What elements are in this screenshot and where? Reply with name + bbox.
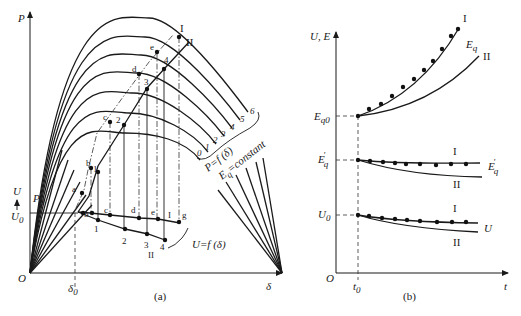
label-c-lower: c (104, 205, 108, 215)
trajectory-I (76, 35, 173, 208)
point-4-upper (162, 67, 166, 71)
point-g-lower (177, 220, 181, 224)
eqp-label-I: I (453, 145, 457, 157)
t-axis-label: t (504, 280, 508, 292)
eq-point-2 (379, 102, 383, 106)
origin-label-b: O (326, 272, 334, 284)
curve-number-5: 5 (240, 114, 245, 124)
point-2-lower (123, 227, 127, 231)
curve-number-3: 3 (220, 129, 226, 139)
label-1-upper: 1 (93, 164, 98, 174)
eq-const-line-5 (263, 158, 282, 273)
caption-b: (b) (403, 290, 416, 303)
u-axis-label: U (13, 185, 22, 197)
eq-point-6 (422, 68, 426, 72)
eqp-curve-label: Eq′ (487, 157, 499, 176)
t0-label: t0 (353, 280, 361, 295)
label-4-upper: 4 (164, 55, 169, 65)
eqp-point-4 (404, 162, 408, 166)
label-II-voltage: II (148, 250, 154, 260)
eq-point-8 (440, 47, 444, 51)
point-d-lower (137, 216, 141, 220)
label-1-lower: 1 (94, 224, 99, 234)
label-II-top: II (186, 36, 194, 48)
point-2-upper (122, 123, 126, 127)
curve-number-6: 6 (250, 106, 255, 116)
caption-a: (a) (154, 290, 167, 303)
point-b2-lower (90, 211, 94, 215)
curve-number-1: 1 (205, 142, 210, 152)
point-e-lower (156, 217, 160, 221)
figure-b-points (356, 27, 468, 224)
delta0-label: δ0 (68, 282, 78, 297)
u-point-8 (464, 220, 468, 224)
eq-const-line-1 (226, 182, 282, 273)
u-point-2 (380, 216, 384, 220)
u0-label: U0 (11, 210, 24, 225)
u-point-0 (356, 213, 360, 217)
eq-curve-II (358, 56, 479, 116)
u-point-3 (393, 217, 397, 221)
voltage-family-label: U=f (δ) (192, 238, 226, 251)
eq-curve-label: Eq (465, 38, 478, 53)
label-2-lower: 2 (122, 236, 127, 246)
u-point-1 (367, 214, 371, 218)
label-d-lower: d (131, 205, 136, 215)
ue-axis-label: U, E (310, 30, 330, 42)
eq-const-line-2 (236, 175, 282, 273)
point-1-lower (96, 218, 100, 222)
eq-point-1 (367, 107, 371, 111)
eq-point-0 (356, 114, 360, 118)
label-a: a (72, 184, 76, 194)
label-c: c (103, 112, 107, 122)
delta-axis-label: δ (266, 280, 272, 292)
u-point-7 (450, 220, 454, 224)
eq-const-line-3 (246, 168, 282, 273)
eqp-point-6 (434, 163, 438, 167)
point-c-lower (108, 213, 112, 217)
eqp-label: Eq′ (317, 150, 329, 169)
eq-point-9 (449, 34, 453, 38)
eq-point-3 (390, 94, 394, 98)
u-point-4 (405, 218, 409, 222)
u-point-6 (435, 220, 439, 224)
diagram-canvas: P O δ δ0 P0 U U0 a b b c c d d e e I II … (0, 0, 521, 316)
eq-point-4 (401, 85, 405, 89)
figure-b: U, E O t t0 Eq0 Eq′ U0 I Eq II I Eq′ II … (310, 12, 508, 303)
label-3-lower: 3 (144, 240, 149, 250)
label-3-upper: 3 (144, 77, 149, 87)
label-I-top: I (180, 22, 184, 34)
eqp-point-5 (418, 162, 422, 166)
point-e (155, 50, 159, 54)
u-point-5 (418, 219, 422, 223)
label-b-upper: b (86, 158, 91, 168)
eqp-point-8 (464, 162, 468, 166)
eq-label-II: II (483, 50, 491, 62)
eq-point-10 (456, 27, 460, 31)
label-e: e (150, 42, 154, 52)
point-3-upper (145, 87, 149, 91)
eq-point-5 (412, 77, 416, 81)
eq-curve-I (358, 28, 459, 116)
eqp-point-3 (393, 161, 397, 165)
point-3-lower (145, 232, 149, 236)
u0-label-b: U0 (318, 208, 331, 223)
u-label-II: II (453, 236, 461, 248)
eqp-point-2 (381, 160, 385, 164)
curve-number-0: 0 (197, 148, 202, 158)
eqp-point-0 (356, 158, 360, 162)
voltage-brace (168, 228, 188, 248)
eq-point-7 (431, 59, 435, 63)
label-4-lower: 4 (160, 242, 165, 252)
curve-number-2: 2 (213, 135, 218, 145)
point-a (80, 191, 84, 195)
label-e-lower: e (151, 207, 155, 217)
curve-number-4: 4 (230, 122, 235, 132)
label-2-upper: 2 (116, 115, 121, 125)
u-label-I: I (453, 202, 457, 214)
p-axis-label: P (17, 12, 25, 24)
figure-a: P O δ δ0 P0 U U0 a b b c c d d e e I II … (11, 12, 282, 303)
point-I (177, 35, 181, 39)
point-d (137, 72, 141, 76)
eqp-label-II: II (453, 178, 461, 190)
